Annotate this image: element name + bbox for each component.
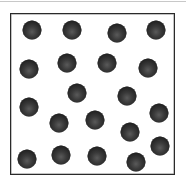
particle-sphere — [52, 146, 71, 165]
particle-sphere — [127, 153, 146, 172]
particle-sphere — [151, 137, 170, 156]
top-divider-line — [0, 1, 186, 2]
particle-sphere — [147, 21, 166, 40]
particle-sphere — [118, 87, 137, 106]
particle-sphere — [18, 150, 37, 169]
particle-sphere — [20, 60, 39, 79]
particle-sphere — [58, 54, 77, 73]
particle-sphere — [150, 104, 169, 123]
particle-sphere — [68, 84, 87, 103]
particle-sphere — [23, 21, 42, 40]
particle-sphere — [108, 24, 127, 43]
particle-sphere — [20, 98, 39, 117]
particle-sphere — [50, 114, 69, 133]
particle-sphere — [63, 21, 82, 40]
particle-sphere — [121, 123, 140, 142]
particle-sphere — [86, 111, 105, 130]
particle-sphere — [98, 54, 117, 73]
particle-sphere — [139, 59, 158, 78]
particle-sphere — [88, 147, 107, 166]
